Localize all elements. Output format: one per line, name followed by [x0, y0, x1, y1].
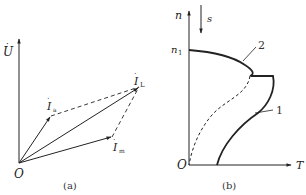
- curve-2-leader: [243, 47, 256, 61]
- svg-text:·: ·: [47, 94, 50, 103]
- label-il: I L ·: [133, 69, 145, 89]
- label-ia: I a ·: [46, 94, 57, 113]
- caption-a: (a): [63, 180, 77, 191]
- synchronous-speed-label: n 1: [171, 44, 182, 57]
- svg-text:·: ·: [113, 135, 116, 144]
- phasor-ia-arrow: [19, 117, 50, 163]
- origin-label-b: O: [177, 158, 187, 172]
- curve-2-solid: [189, 50, 253, 76]
- voltage-dot: ·: [6, 39, 9, 49]
- svg-text:n: n: [171, 44, 177, 55]
- curve-2-dashed: [189, 76, 250, 165]
- phasor-im-arrow: [19, 137, 111, 163]
- svg-text:·: ·: [134, 69, 137, 78]
- slip-label: s: [207, 13, 212, 24]
- curve-1-leader: [255, 110, 273, 113]
- curve-2-label: 2: [258, 39, 265, 52]
- svg-text:m: m: [119, 147, 125, 154]
- phasor-diagram-a: U · I a · I L · I m · O (a): [3, 39, 145, 191]
- curve-1-label: 1: [276, 104, 283, 117]
- label-im: I m ·: [112, 135, 125, 154]
- parallelogram-dash-right: [112, 87, 139, 137]
- svg-text:a: a: [53, 106, 57, 113]
- torque-speed-diagram-b: n T O s n 1 2 1 (b): [171, 5, 305, 191]
- figure-canvas: U · I a · I L · I m · O (a): [0, 0, 306, 195]
- caption-b: (b): [222, 180, 236, 191]
- origin-label-a: O: [14, 167, 24, 181]
- curve-1: [217, 76, 274, 165]
- speed-axis-label: n: [175, 9, 182, 22]
- svg-text:1: 1: [178, 49, 182, 57]
- svg-text:L: L: [140, 81, 145, 89]
- torque-axis-label: T: [296, 159, 305, 172]
